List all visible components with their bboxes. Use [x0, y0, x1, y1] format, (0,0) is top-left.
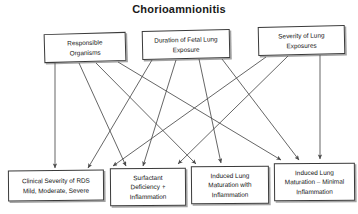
- node-clinical-severity-rds[interactable]: Clinical Severity of RDS Mild, Moderate,…: [8, 170, 104, 202]
- edge-duration-to-rds: [88, 60, 152, 168]
- node-induced-lung-maturation-minimal-inflammation[interactable]: Induced Lung Maturation – Minimal Inflam…: [274, 163, 355, 202]
- edge-severity-to-surfactant: [113, 57, 266, 166]
- node-duration-fetal-lung-exposure[interactable]: Duration of Fetal Lung Exposure: [142, 29, 231, 60]
- node-severity-lung-exposures[interactable]: Severity of Lung Exposures: [258, 25, 346, 56]
- node-responsible-organisms[interactable]: Responsible Organisms: [44, 32, 127, 63]
- node-label-line2: Mild, Moderate, Severe: [11, 185, 101, 195]
- edge-duration-to-induced-with-inflammation: [199, 59, 221, 163]
- edge-duration-to-surfactant: [143, 60, 176, 166]
- edge-organisms-to-surfactant: [79, 63, 126, 166]
- node-label-line1: Clinical Severity of RDS: [11, 176, 101, 186]
- node-label-line2: Maturation – Minimal: [277, 177, 352, 187]
- node-label-line3: Inflammation: [194, 189, 266, 199]
- node-label-line2: Exposure: [145, 44, 227, 55]
- edge-severity-to-induced-with-inflammation: [178, 56, 288, 164]
- node-label-line3: Inflammation: [113, 191, 183, 201]
- node-label-line2: Organisms: [47, 46, 123, 57]
- edge-organisms-to-induced-with-inflammation: [96, 63, 196, 164]
- node-label-line3: Inflammation: [277, 186, 352, 196]
- diagram-canvas: Chorioamnionitis Responsible Organisms D: [0, 0, 358, 214]
- node-surfactant-deficiency-inflammation[interactable]: Surfactant Deficiency + Inflammation: [110, 168, 186, 207]
- node-induced-lung-maturation-with-inflammation[interactable]: Induced Lung Maturation with Inflammatio…: [191, 166, 269, 205]
- node-label-line2: Exposures: [261, 40, 342, 51]
- node-label-line1: Duration of Fetal Lung: [145, 34, 227, 45]
